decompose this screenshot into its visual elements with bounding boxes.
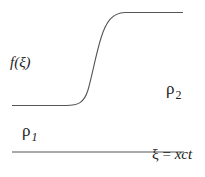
diagram-canvas: f(ξ) ρ2 ρ1 ξ = xct (0, 0, 205, 177)
axis-label-rhs: xct (175, 146, 192, 162)
density-rho1-label: ρ1 (22, 122, 37, 139)
rho2-symbol: ρ (166, 79, 174, 98)
rho1-symbol: ρ (22, 121, 30, 140)
axis-label-lhs: ξ (152, 146, 159, 162)
axis-label-eq: = (159, 146, 175, 162)
density-rho2-label: ρ2 (166, 80, 181, 97)
function-label: f(ξ) (10, 55, 31, 70)
sigmoid-curve (12, 13, 183, 106)
rho2-subscript: 2 (175, 88, 181, 102)
rho1-subscript: 1 (31, 130, 37, 144)
axis-label: ξ = xct (152, 147, 192, 162)
